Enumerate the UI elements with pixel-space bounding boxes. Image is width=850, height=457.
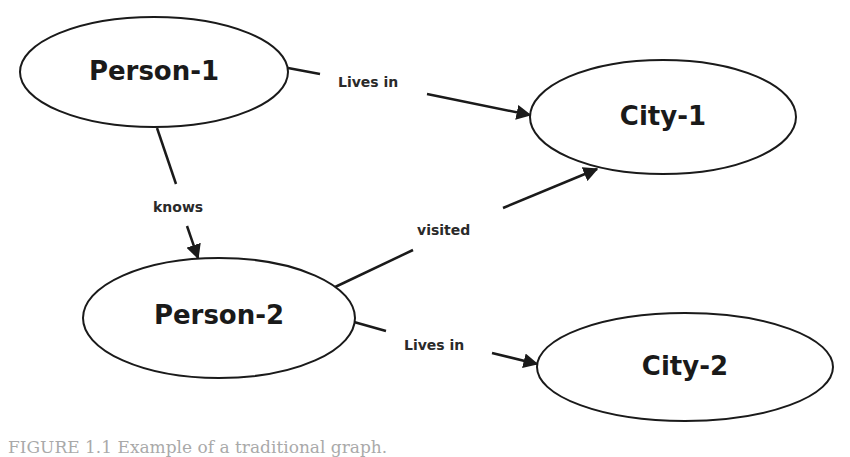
node-city-1: City-1 [530,60,796,174]
edge-label-knows: knows [153,199,203,215]
figure-caption: FIGURE 1.1 Example of a traditional grap… [8,437,387,457]
edge-person1-lives-in-city1: Lives in [288,68,530,115]
node-person-2: Person-2 [83,258,355,378]
edge-person1-knows-person2: knows [153,128,203,258]
node-label-person-2: Person-2 [154,300,284,330]
edge-label-lives-in-2: Lives in [404,337,464,353]
edge-label-lives-in-1: Lives in [338,74,398,90]
edge-label-visited: visited [417,222,470,238]
node-label-city-1: City-1 [620,101,706,131]
node-city-2: City-2 [537,313,833,421]
node-label-person-1: Person-1 [89,56,219,86]
node-person-1: Person-1 [20,17,288,127]
edge-person2-visited-city1: visited [333,169,597,288]
node-label-city-2: City-2 [642,351,728,381]
edge-person2-lives-in-city2: Lives in [354,322,537,364]
